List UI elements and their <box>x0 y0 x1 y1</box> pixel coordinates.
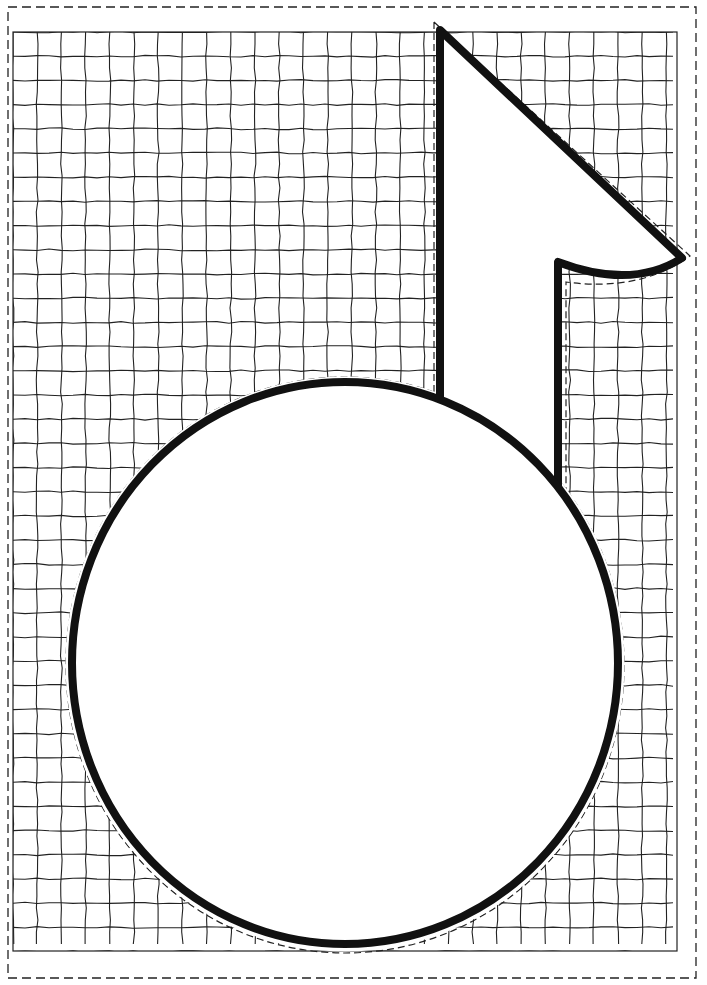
illustration-canvas <box>0 0 707 985</box>
note-cutout-illustration <box>0 0 707 985</box>
